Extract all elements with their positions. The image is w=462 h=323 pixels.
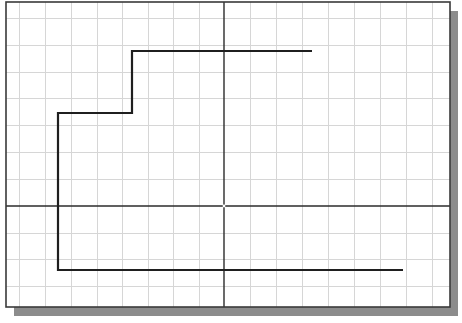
- grid-drawing: [0, 0, 462, 323]
- drawing-frame-background: [6, 2, 450, 307]
- origin-marker-icon: [223, 205, 226, 208]
- cad-drawing-canvas: [0, 0, 462, 323]
